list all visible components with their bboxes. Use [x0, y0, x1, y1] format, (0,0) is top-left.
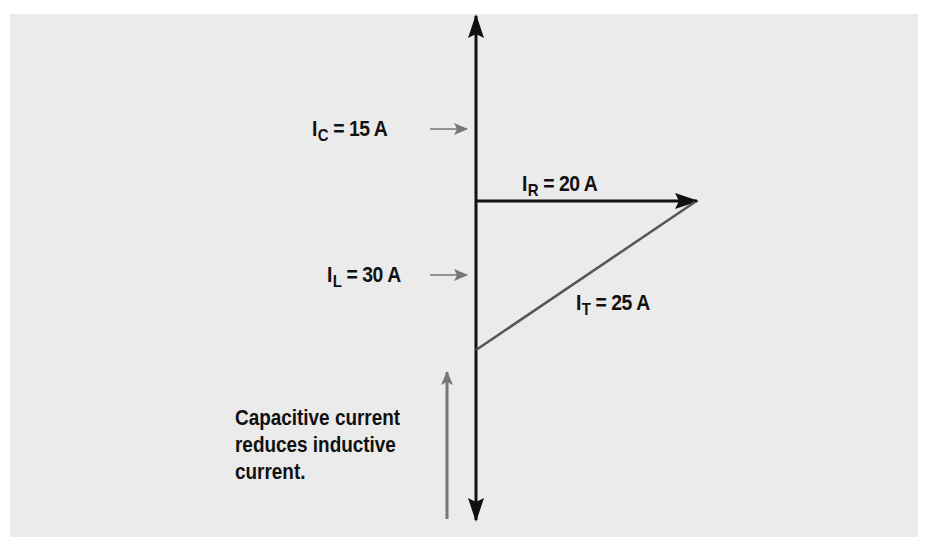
ic-value: = 15 A	[333, 116, 387, 141]
ic-subscript: C	[318, 126, 328, 145]
phasor-diagram	[0, 0, 939, 546]
ir-label: IR = 20 A	[522, 171, 597, 197]
ic-symbol: I	[312, 116, 317, 141]
it-value: = 25 A	[595, 290, 649, 315]
il-subscript: L	[333, 272, 342, 291]
ic-label: IC = 15 A	[312, 116, 387, 142]
it-symbol: I	[576, 290, 581, 315]
ir-symbol: I	[522, 171, 527, 196]
il-symbol: I	[327, 262, 332, 287]
il-label: IL = 30 A	[327, 262, 401, 288]
it-vector	[476, 202, 695, 350]
it-label: IT = 25 A	[576, 290, 650, 316]
il-value: = 30 A	[346, 262, 400, 287]
it-subscript: T	[582, 300, 591, 319]
ir-subscript: R	[528, 181, 538, 200]
ir-value: = 20 A	[543, 171, 597, 196]
capacitive-note: Capacitive current reduces inductive cur…	[235, 404, 416, 485]
